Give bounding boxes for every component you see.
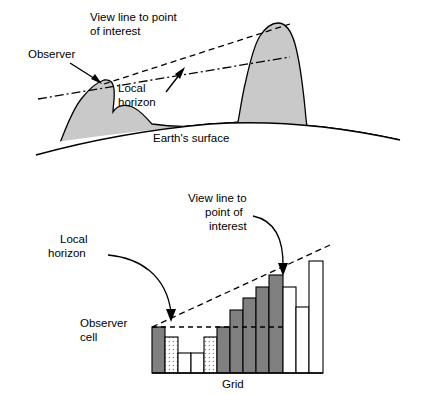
bar-7 <box>230 310 243 373</box>
local-horizon-label-line1: Local <box>60 233 88 245</box>
observer-cell-label-line1: Observer <box>80 317 127 329</box>
view-line-label-line1: View line to point <box>90 11 178 23</box>
local-horizon-arrowhead <box>175 67 185 79</box>
terrain-diagram-svg: Observer View line to point of interest … <box>0 0 421 180</box>
view-line-leader-curve <box>253 216 283 268</box>
earth-surface-label: Earth's surface <box>153 132 229 144</box>
local-horizon-leader-curve <box>108 255 171 312</box>
bar-6 <box>217 327 230 373</box>
bar-13 <box>309 261 323 373</box>
view-line-label-line3: interest <box>209 220 248 232</box>
bar-2 <box>165 337 178 373</box>
bar-10-point-of-interest <box>269 275 283 373</box>
observer-label: Observer <box>28 48 75 60</box>
bar-9 <box>256 287 269 373</box>
view-line-arrowhead <box>278 263 288 276</box>
grid-axis-label: Grid <box>222 378 244 390</box>
observer-arrowhead <box>91 74 102 84</box>
bar-1-observer-cell <box>152 327 165 373</box>
local-horizon-label-line1: Local <box>118 82 146 94</box>
bar-11 <box>283 287 296 373</box>
bar-4 <box>191 353 204 373</box>
bar-8 <box>243 298 256 373</box>
bar-5 <box>204 337 217 373</box>
bar-3 <box>178 353 191 373</box>
local-horizon-arrowhead <box>166 309 176 322</box>
grid-cell-profile-panel: View line to point of interest Local hor… <box>0 180 421 395</box>
observer-cell-label-line2: cell <box>80 331 97 343</box>
bar-group <box>152 261 323 373</box>
terrain-cross-section-panel: Observer View line to point of interest … <box>0 0 421 180</box>
local-horizon-label-line2: horizon <box>118 96 156 108</box>
view-line-label-line2: point of <box>205 206 244 218</box>
grid-profile-svg: View line to point of interest Local hor… <box>0 180 421 395</box>
bar-12 <box>296 307 309 373</box>
figure-root: Observer View line to point of interest … <box>0 0 421 395</box>
local-horizon-label-line2: horizon <box>48 247 86 259</box>
view-line-label-line2: of interest <box>90 25 141 37</box>
view-line-label-line1: View line to <box>188 192 247 204</box>
